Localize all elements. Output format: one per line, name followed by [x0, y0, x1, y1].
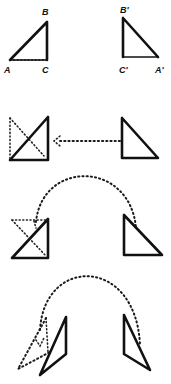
row-3	[12, 176, 162, 258]
row-4-left-figures	[18, 317, 66, 375]
label-a: A	[3, 65, 11, 75]
row-2-arrow	[54, 136, 120, 146]
row-3-right-triangle	[124, 215, 162, 255]
label-b: B	[42, 7, 49, 17]
row-2-right-triangle	[122, 118, 158, 158]
row-2	[10, 117, 158, 160]
triangle-prime-solid-edges	[123, 18, 158, 57]
row-3-left-figure	[12, 219, 48, 258]
triangle-abc-solid-edges	[10, 22, 47, 60]
row-1: B A C B' C' A'	[3, 5, 164, 75]
triangle-congruence-diagram: B A C B' C' A'	[0, 0, 171, 384]
label-b-prime: B'	[120, 5, 129, 15]
row-4-ghost-fold	[36, 338, 44, 346]
row-3-right-triangle-edges	[124, 215, 162, 255]
row-4-dotted-ghost-edge	[46, 318, 48, 352]
row-2-left-figure	[10, 117, 48, 160]
row-2-dotted-diagonal	[10, 118, 44, 156]
row-2-right-triangle-edges	[122, 118, 158, 158]
label-c: C	[42, 65, 49, 75]
row-3-flip-arc	[36, 176, 136, 228]
label-c-prime: C'	[119, 65, 128, 75]
triangle-abc: B A C	[3, 7, 49, 75]
label-a-prime: A'	[154, 65, 164, 75]
triangle-a-prime-b-prime-c-prime: B' C' A'	[119, 5, 164, 75]
row-4	[18, 276, 150, 375]
row-4-tilted-triangle	[40, 317, 66, 375]
